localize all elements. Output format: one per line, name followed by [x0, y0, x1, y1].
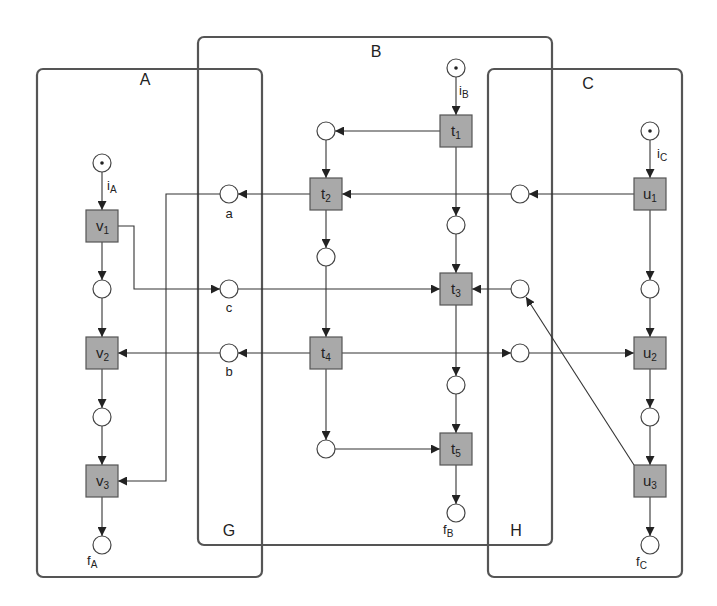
label-fB: fB [443, 522, 454, 539]
box-B-label: B [371, 43, 382, 60]
place-H1 [511, 185, 529, 203]
place-b [220, 344, 238, 362]
place-C1 [641, 280, 659, 298]
box-H-label: H [510, 522, 522, 539]
box-C [488, 69, 682, 577]
box-B [198, 37, 552, 545]
petri-net-diagram: A B C G H [0, 0, 717, 606]
arc-v1-c [118, 226, 220, 289]
arc-u3-hp [526, 297, 634, 465]
box-C-label: C [582, 75, 594, 92]
place-fC [641, 536, 659, 554]
place-B3 [317, 440, 335, 458]
place-fB [447, 504, 465, 522]
place-c [220, 280, 238, 298]
place-iC [641, 122, 659, 140]
box-A [37, 69, 262, 577]
place-iB [447, 59, 465, 77]
label-iA: iA [107, 178, 117, 195]
place-C2 [641, 408, 659, 426]
label-a: a [225, 206, 233, 221]
place-fA [93, 536, 111, 554]
label-c: c [226, 300, 233, 315]
arc-a-v3 [118, 194, 220, 481]
label-iC: iC [657, 146, 667, 163]
box-G-label: G [223, 522, 235, 539]
place-B5 [447, 376, 465, 394]
label-fC: fC [636, 554, 647, 571]
place-H3 [511, 344, 529, 362]
place-A2 [93, 408, 111, 426]
box-A-label: A [140, 71, 151, 88]
place-A1 [93, 280, 111, 298]
place-B4 [447, 216, 465, 234]
place-a [220, 185, 238, 203]
place-iA [93, 154, 111, 172]
place-B1 [317, 122, 335, 140]
place-B2 [317, 248, 335, 266]
label-fA: fA [87, 553, 98, 570]
place-H2 [511, 280, 529, 298]
label-iB: iB [459, 83, 469, 100]
label-b: b [225, 364, 232, 379]
